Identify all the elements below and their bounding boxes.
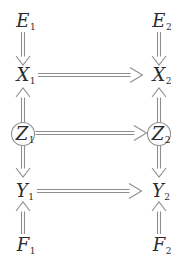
arrowhead-right-icon xyxy=(129,184,142,199)
node-E2-subscript: 2 xyxy=(166,22,172,32)
edge-X1-X2-arrow xyxy=(38,68,143,83)
arrowhead-up-icon xyxy=(152,88,166,97)
arrowhead-up-icon xyxy=(16,88,30,97)
edge-E2-X2-arrow xyxy=(152,32,166,65)
node-E2: E2 xyxy=(152,12,171,32)
node-Y1: Y1 xyxy=(16,182,34,202)
node-Z2-label: Z xyxy=(152,123,165,144)
edge-F1-Y1-arrow xyxy=(16,202,30,234)
edge-E1-X1-arrow xyxy=(16,32,30,65)
node-F2-label: F xyxy=(153,234,166,255)
node-E2-label: E xyxy=(152,10,165,31)
node-Z2: Z2 xyxy=(152,125,171,145)
node-F2: F2 xyxy=(153,236,172,256)
node-X2-label: X xyxy=(152,64,165,85)
node-Y1-subscript: 1 xyxy=(28,192,34,202)
node-X1-label: X xyxy=(16,64,29,85)
edge-F2-Y2-arrow xyxy=(152,202,166,234)
node-Z2-subscript: 2 xyxy=(165,135,171,145)
node-X2: X2 xyxy=(152,66,171,86)
edge-Z2-X2-arrow xyxy=(152,88,166,122)
node-Y2: Y2 xyxy=(152,182,170,202)
node-Z1-subscript: 1 xyxy=(29,135,35,145)
node-X2-subscript: 2 xyxy=(166,76,172,86)
edge-Z1-Z2-arrow xyxy=(36,126,147,141)
node-E1: E1 xyxy=(16,12,35,32)
arrowhead-down-icon xyxy=(152,168,166,177)
node-Z1: Z1 xyxy=(16,125,35,145)
arrowhead-up-icon xyxy=(152,202,166,211)
arrowhead-right-icon xyxy=(130,68,143,83)
node-Y2-label: Y xyxy=(152,180,164,201)
node-E1-subscript: 1 xyxy=(30,22,36,32)
node-F1: F1 xyxy=(17,236,36,256)
edge-Z1-X1-arrow xyxy=(16,88,30,122)
edge-Z1-Y1-arrow xyxy=(16,146,30,177)
causal-graph-diagram: E1 E2 X1 X2 Z1 Z2 Y1 Y2 F1 F2 xyxy=(0,0,181,269)
node-Y2-subscript: 2 xyxy=(164,192,170,202)
arrowhead-down-icon xyxy=(16,168,30,177)
node-E1-label: E xyxy=(16,10,29,31)
node-X1: X1 xyxy=(16,66,35,86)
node-F1-label: F xyxy=(17,234,30,255)
node-F1-subscript: 1 xyxy=(30,246,36,256)
node-X1-subscript: 1 xyxy=(30,76,36,86)
node-Y1-label: Y xyxy=(16,180,28,201)
edge-Z2-Y2-arrow xyxy=(152,146,166,177)
edge-Y1-Y2-arrow xyxy=(37,184,142,199)
arrowhead-right-icon xyxy=(134,126,147,141)
arrowhead-up-icon xyxy=(16,202,30,211)
node-F2-subscript: 2 xyxy=(166,246,172,256)
node-Z1-label: Z xyxy=(16,123,29,144)
